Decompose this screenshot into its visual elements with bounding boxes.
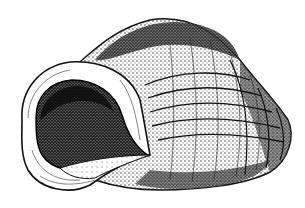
- snail-shell-illustration: [0, 0, 305, 208]
